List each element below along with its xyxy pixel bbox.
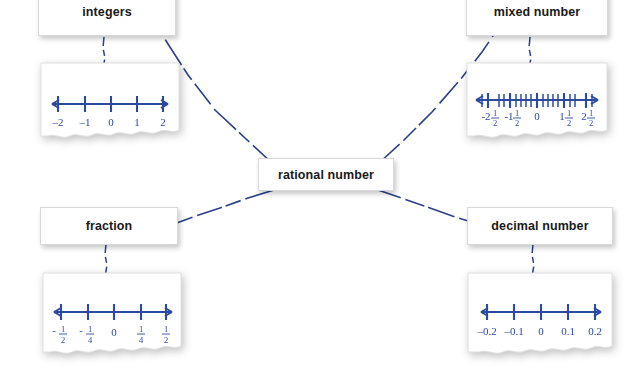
node-card-integers[interactable]: integers (38, 0, 176, 36)
connector-center-to-decimal-number (378, 190, 478, 224)
mixed-label-1-base: -1 (504, 110, 513, 122)
number-line-card-mixed-number: -2 1 2 -1 1 2 0 1 1 2 2 1 2 (466, 62, 608, 152)
node-label-mixed-number: mixed number (494, 5, 581, 19)
node-label-decimal-number: decimal number (491, 219, 588, 233)
fraction-number-line-svg: - 1 2 - 1 4 0 1 4 1 2 (42, 272, 182, 368)
mixed-number-tick-label-2: 0 (534, 110, 540, 122)
svg-text:1: 1 (88, 324, 92, 334)
mixed-number-number-line-svg: -2 1 2 -1 1 2 0 1 1 2 2 1 2 (466, 62, 608, 152)
integers-tick-label-3: 1 (134, 116, 140, 128)
decimal-tick-label-4: 0.2 (588, 325, 602, 337)
fraction-tick-label-2: 0 (111, 326, 117, 338)
svg-text:2: 2 (567, 118, 571, 128)
svg-text:1: 1 (515, 108, 519, 118)
node-card-mixed-number[interactable]: mixed number (466, 0, 608, 36)
svg-text:1: 1 (589, 108, 593, 118)
number-line-card-decimal-number: –0.2 –0.1 0 0.1 0.2 (467, 272, 613, 368)
node-card-rational-number[interactable]: rational number (258, 158, 394, 191)
decimal-tick-label-2: 0 (538, 325, 544, 337)
integers-number-line-svg: –2 –1 0 1 2 (40, 62, 180, 152)
svg-text:1: 1 (567, 108, 571, 118)
svg-text:1: 1 (493, 108, 497, 118)
node-label-rational-number: rational number (278, 168, 374, 182)
svg-text:-: - (52, 324, 56, 336)
svg-text:1: 1 (139, 324, 143, 334)
decimal-tick-label-1: –0.1 (503, 325, 523, 337)
node-card-decimal-number[interactable]: decimal number (467, 207, 613, 245)
node-label-fraction: fraction (86, 219, 133, 233)
integers-tick-label-2: 0 (108, 116, 114, 128)
svg-text:2: 2 (589, 118, 593, 128)
svg-text:2: 2 (493, 118, 497, 128)
svg-text:2: 2 (61, 335, 65, 345)
svg-text:1: 1 (164, 324, 168, 334)
decimal-tick-label-0: –0.2 (476, 325, 496, 337)
integers-tick-label-1: –1 (79, 116, 91, 128)
decimal-number-number-line-svg: –0.2 –0.1 0 0.1 0.2 (467, 272, 613, 368)
integers-tick-label-0: –2 (52, 116, 64, 128)
mixed-label-4-base: 2 (581, 110, 587, 122)
svg-text:2: 2 (164, 335, 168, 345)
mixed-label-3-base: 1 (559, 110, 565, 122)
node-card-fraction[interactable]: fraction (40, 207, 178, 245)
number-line-card-integers: –2 –1 0 1 2 (40, 62, 180, 152)
concept-map-canvas: integers mixed number rational number fr… (0, 0, 631, 388)
svg-text:2: 2 (515, 118, 519, 128)
integers-tick-label-4: 2 (160, 116, 166, 128)
svg-text:1: 1 (61, 324, 65, 334)
connector-center-to-fraction (174, 190, 274, 224)
svg-text:-: - (79, 324, 83, 336)
number-line-card-fraction: - 1 2 - 1 4 0 1 4 1 2 (42, 272, 182, 368)
decimal-tick-label-3: 0.1 (561, 325, 575, 337)
mixed-label-0-base: -2 (481, 110, 490, 122)
node-label-integers: integers (82, 5, 131, 19)
